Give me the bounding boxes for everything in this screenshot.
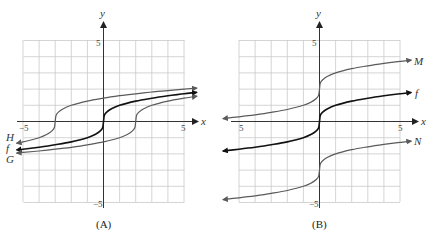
panel-b-tick-x-pos: 5 bbox=[398, 123, 403, 133]
panel-a-y-label: y bbox=[99, 7, 105, 19]
panel-b-tick-x-neg: 5 bbox=[239, 123, 244, 133]
panel-a-tick-y-pos: 5 bbox=[96, 38, 101, 48]
panel-b-label-n: N bbox=[413, 135, 422, 147]
panel-b-graph: x y 5 5 5 −5 M f N (B) bbox=[223, 7, 426, 231]
panel-b-label-f: f bbox=[415, 87, 420, 99]
curve-h bbox=[17, 88, 197, 143]
panel-b-x-label: x bbox=[420, 115, 426, 127]
panel-a-label-g: G bbox=[6, 153, 14, 165]
curve-g bbox=[17, 96, 197, 153]
panel-a-caption: (A) bbox=[96, 218, 112, 231]
panel-a-graph: x y −5 5 5 −5 H f G (A) bbox=[5, 7, 206, 231]
panel-b-tick-y-pos: 5 bbox=[312, 38, 317, 48]
panel-a-curves bbox=[17, 88, 197, 153]
panel-a-tick-x-neg: −5 bbox=[19, 123, 29, 133]
figure: x y −5 5 5 −5 H f G (A) x y 5 5 5 −5 M f… bbox=[0, 0, 433, 241]
panel-b-y-label: y bbox=[315, 7, 321, 19]
panel-b-tick-y-neg: −5 bbox=[309, 199, 319, 209]
panel-a-tick-x-pos: 5 bbox=[181, 123, 186, 133]
panel-a-tick-y-neg: −5 bbox=[93, 199, 103, 209]
panel-b-caption: (B) bbox=[312, 218, 327, 231]
panel-b-curves bbox=[223, 60, 411, 200]
panel-b-label-m: M bbox=[413, 55, 424, 67]
panel-a-x-label: x bbox=[200, 115, 206, 127]
